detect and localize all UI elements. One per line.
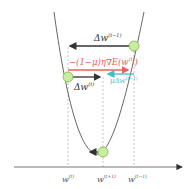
momentum-diagram: Δw(t−1) −(1−μ)η∇E(w(t)) μΔw(t−1) Δw(t) w… xyxy=(0,0,193,189)
label-delta-prev: Δw(t−1) xyxy=(93,32,122,43)
label-momentum: μΔw(t−1) xyxy=(110,76,138,85)
ball-bottom xyxy=(98,147,108,157)
diagram-canvas: Δw(t−1) −(1−μ)η∇E(w(t)) μΔw(t−1) Δw(t) w… xyxy=(0,0,193,189)
tick-w-t1: w(t+1) xyxy=(97,174,116,184)
tick-w-tm1: w(t−1) xyxy=(128,174,147,184)
ball-left xyxy=(63,72,73,82)
label-delta-curr: Δw(t) xyxy=(73,81,94,92)
label-gradient: −(1−μ)η∇E(w(t)) xyxy=(69,56,138,67)
tick-w-t: w(t) xyxy=(62,174,74,184)
ball-top-right xyxy=(129,41,139,51)
